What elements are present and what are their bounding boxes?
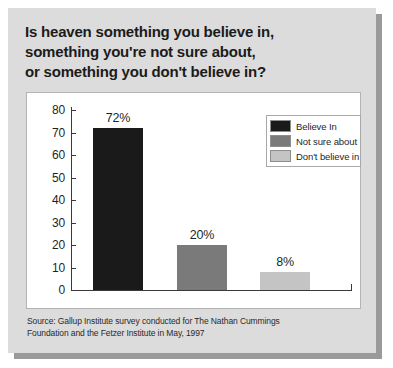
legend-swatch-icon <box>270 120 291 132</box>
legend-item: Don't believe in <box>270 149 356 163</box>
source-note: Source: Gallup Institute survey conducte… <box>27 316 357 339</box>
chart-bar <box>93 128 143 290</box>
legend-item: Not sure about <box>270 134 356 148</box>
chart-bar <box>260 272 310 290</box>
bar-value-label: 72% <box>81 111 155 125</box>
title-line-3: or something you don't believe in? <box>25 62 355 82</box>
bar-value-label: 8% <box>248 255 322 269</box>
chart-plot-panel: 01020304050607080 72%20%8% Believe InNot… <box>26 92 361 309</box>
legend-label: Believe In <box>296 121 337 132</box>
bar-value-label: 20% <box>165 228 239 242</box>
chart-title: Is heaven something you believe in, some… <box>25 22 355 82</box>
legend-swatch-icon <box>270 150 291 162</box>
title-line-2: something you're not sure about, <box>25 42 355 62</box>
x-axis-line <box>71 290 352 291</box>
legend-swatch-icon <box>270 135 291 147</box>
source-line-1: Source: Gallup Institute survey conducte… <box>27 316 357 328</box>
chart-card: Is heaven something you believe in, some… <box>8 8 376 353</box>
chart-legend: Believe InNot sure aboutDon't believe in <box>266 115 361 167</box>
title-line-1: Is heaven something you believe in, <box>25 22 355 42</box>
legend-label: Don't believe in <box>296 151 359 162</box>
chart-bar <box>177 245 227 290</box>
legend-label: Not sure about <box>296 136 357 147</box>
legend-item: Believe In <box>270 119 356 133</box>
source-line-2: Foundation and the Fetzer Institute in M… <box>27 328 357 340</box>
